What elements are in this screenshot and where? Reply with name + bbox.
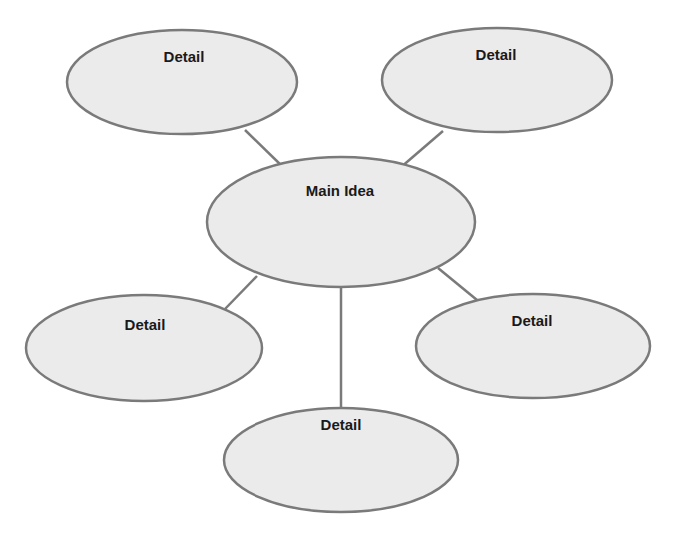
detail-label: Detail <box>321 416 362 433</box>
detail-ellipse <box>382 28 612 132</box>
main-idea-ellipse <box>207 157 475 287</box>
detail-node-middle-right[interactable]: Detail <box>416 294 650 398</box>
connector-top-right <box>400 131 443 168</box>
detail-label: Detail <box>512 312 553 329</box>
main-idea-label: Main Idea <box>306 182 375 199</box>
concept-web-diagram: Detail Detail Main Idea Detail Detail De… <box>0 0 674 538</box>
detail-ellipse <box>416 294 650 398</box>
detail-ellipse <box>26 295 262 401</box>
detail-ellipse <box>67 30 297 134</box>
detail-label: Detail <box>476 46 517 63</box>
detail-label: Detail <box>125 316 166 333</box>
diagram-canvas: Detail Detail Main Idea Detail Detail De… <box>0 0 674 538</box>
connector-middle-left <box>225 276 257 309</box>
connector-top-left <box>245 130 284 168</box>
detail-node-middle-left[interactable]: Detail <box>26 295 262 401</box>
detail-node-bottom[interactable]: Detail <box>224 408 458 512</box>
detail-node-top-left[interactable]: Detail <box>67 30 297 134</box>
detail-label: Detail <box>164 48 205 65</box>
main-idea-node[interactable]: Main Idea <box>207 157 475 287</box>
detail-node-top-right[interactable]: Detail <box>382 28 612 132</box>
connector-middle-right <box>438 268 477 300</box>
